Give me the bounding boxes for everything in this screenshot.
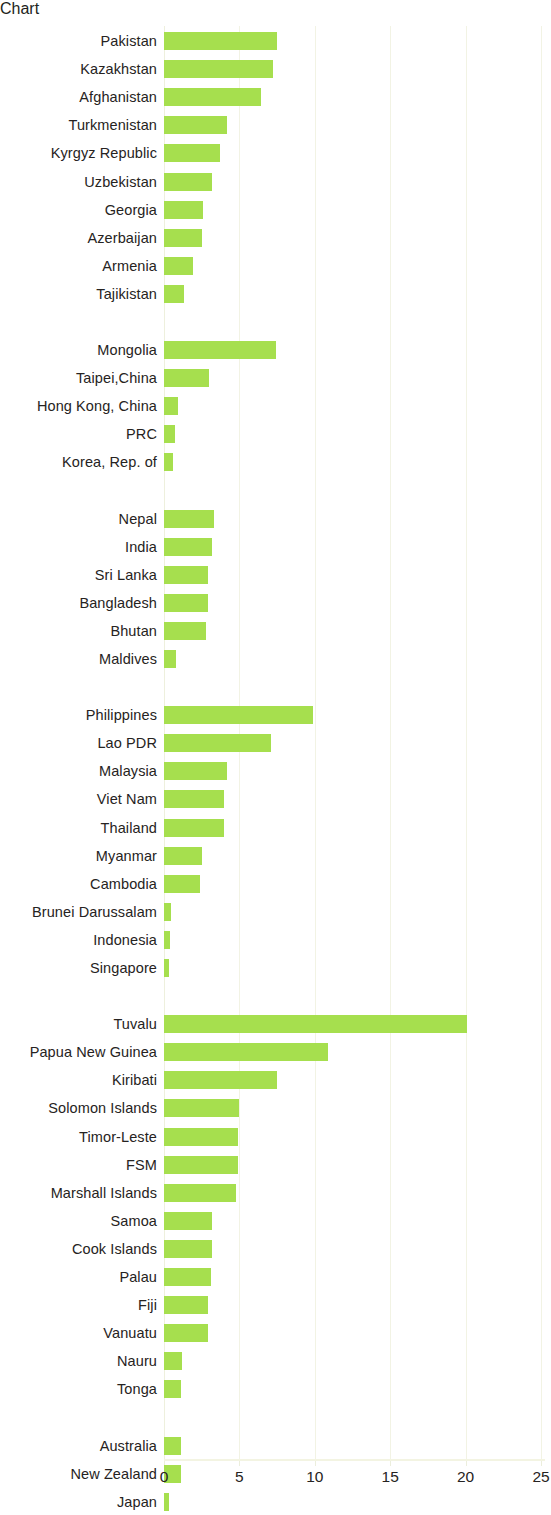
category-label: Maldives: [99, 652, 157, 667]
bar-row: Sri Lanka: [164, 566, 208, 584]
bar: [164, 173, 212, 191]
bar: [164, 1296, 208, 1314]
bar-row: Malaysia: [164, 762, 227, 780]
bar-row: Tajikistan: [164, 285, 184, 303]
bar-row: Bhutan: [164, 622, 206, 640]
bar: [164, 453, 173, 471]
category-label: Malaysia: [99, 764, 157, 779]
category-label: Uzbekistan: [84, 174, 157, 189]
category-label: Cambodia: [90, 876, 157, 891]
category-label: Korea, Rep. of: [62, 455, 157, 470]
category-label: Armenia: [102, 259, 157, 274]
bar-row: Timor-Leste: [164, 1128, 238, 1146]
bar: [164, 538, 212, 556]
category-label: Timor-Leste: [79, 1129, 157, 1144]
bar: [164, 60, 273, 78]
bar-row: Taipei,China: [164, 369, 209, 387]
bar: [164, 144, 220, 162]
bar-row: Kyrgyz Republic: [164, 144, 220, 162]
category-label: Japan: [117, 1494, 157, 1509]
bar-row: Marshall Islands: [164, 1184, 236, 1202]
bar-row: Korea, Rep. of: [164, 453, 173, 471]
bar-row: FSM: [164, 1156, 238, 1174]
bar-row: Philippines: [164, 706, 313, 724]
bar-row: Brunei Darussalam: [164, 903, 171, 921]
bar: [164, 1240, 212, 1258]
category-label: Tuvalu: [113, 1017, 157, 1032]
x-tick-label: 15: [382, 1469, 399, 1485]
bar-chart: PakistanKazakhstanAfghanistanTurkmenista…: [0, 18, 551, 1515]
category-label: Bhutan: [110, 624, 157, 639]
bar: [164, 959, 169, 977]
bar: [164, 1128, 238, 1146]
category-label: Fiji: [138, 1298, 157, 1313]
bar: [164, 1380, 181, 1398]
bar-row: Viet Nam: [164, 790, 224, 808]
category-label: Hong Kong, China: [37, 399, 157, 414]
category-label: Georgia: [105, 202, 157, 217]
bar: [164, 1015, 467, 1033]
bar: [164, 1212, 212, 1230]
gridline-25: [541, 26, 542, 1459]
category-label: Taipei,China: [76, 371, 157, 386]
bar-row: Cambodia: [164, 875, 200, 893]
x-tick-label: 0: [160, 1469, 169, 1485]
bar-row: Solomon Islands: [164, 1099, 239, 1117]
bar: [164, 369, 209, 387]
x-axis-baseline: [164, 1459, 545, 1461]
bar: [164, 1071, 277, 1089]
category-label: Cook Islands: [72, 1242, 157, 1257]
bar-row: Kazakhstan: [164, 60, 273, 78]
bar-row: Myanmar: [164, 847, 202, 865]
bar-row: Singapore: [164, 959, 169, 977]
category-label: Philippines: [86, 708, 157, 723]
category-label: Tonga: [117, 1382, 157, 1397]
bar-row: India: [164, 538, 212, 556]
bar: [164, 201, 203, 219]
bar: [164, 1437, 181, 1455]
bar: [164, 341, 276, 359]
category-label: Turkmenistan: [69, 118, 158, 133]
bar-row: Tonga: [164, 1380, 181, 1398]
bar-row: Palau: [164, 1268, 211, 1286]
bar-row: Cook Islands: [164, 1240, 212, 1258]
category-label: Sri Lanka: [95, 567, 157, 582]
bar-row: Pakistan: [164, 32, 277, 50]
bar: [164, 847, 202, 865]
gridline-15: [390, 26, 391, 1459]
bar-row: Japan: [164, 1493, 169, 1511]
category-label: Pakistan: [101, 34, 157, 49]
bar-row: Vanuatu: [164, 1324, 208, 1342]
bar-row: Mongolia: [164, 341, 276, 359]
bar-row: Australia: [164, 1437, 181, 1455]
category-label: FSM: [126, 1157, 157, 1172]
bar: [164, 819, 224, 837]
bar: [164, 1043, 328, 1061]
category-label: India: [125, 539, 157, 554]
bar: [164, 229, 202, 247]
bar: [164, 1099, 239, 1117]
category-label: Papua New Guinea: [30, 1045, 157, 1060]
gridline-10: [315, 26, 316, 1459]
category-label: Tajikistan: [96, 287, 157, 302]
bar: [164, 875, 200, 893]
bar: [164, 594, 208, 612]
bar: [164, 116, 227, 134]
bar: [164, 285, 184, 303]
bar: [164, 762, 227, 780]
category-label: Viet Nam: [97, 792, 157, 807]
bar-row: Thailand: [164, 819, 224, 837]
bar: [164, 1493, 169, 1511]
bar: [164, 1156, 238, 1174]
bar-row: Uzbekistan: [164, 173, 212, 191]
x-tick-label: 20: [457, 1469, 474, 1485]
category-label: Mongolia: [97, 343, 157, 358]
x-tick-label: 10: [306, 1469, 323, 1485]
category-label: Solomon Islands: [48, 1101, 157, 1116]
bar-row: Nauru: [164, 1352, 182, 1370]
bar: [164, 734, 271, 752]
category-label: Brunei Darussalam: [32, 905, 157, 920]
gridline-20: [466, 26, 467, 1459]
bar-row: Afghanistan: [164, 88, 261, 106]
category-label: Palau: [119, 1270, 157, 1285]
